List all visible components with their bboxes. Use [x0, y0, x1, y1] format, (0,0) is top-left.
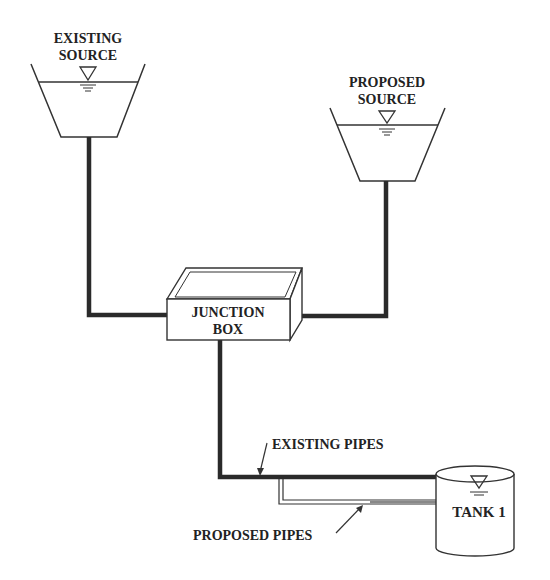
existing-source-reservoir: EXISTING SOURCE [31, 31, 145, 137]
proposed-source-reservoir: PROPOSED SOURCE [330, 75, 445, 181]
proposed-pipe [279, 479, 436, 504]
proposed-source-label-line2: SOURCE [358, 92, 416, 107]
pipe-network-diagram: EXISTING SOURCE PROPOSED SOURCE [0, 0, 550, 580]
proposed-source-label-line1: PROPOSED [349, 75, 425, 90]
junction-box: JUNCTION BOX [167, 268, 302, 340]
existing-source-label-line1: EXISTING [54, 31, 123, 46]
water-level-icon [80, 67, 96, 91]
junction-box-label-line1: JUNCTION [191, 305, 264, 320]
existing-source-label-line2: SOURCE [59, 48, 117, 63]
tank-1: TANK 1 [436, 466, 514, 556]
existing-pipes-label: EXISTING PIPES [272, 437, 384, 452]
tank-label: TANK 1 [452, 504, 505, 520]
existing-pipes-annotation: EXISTING PIPES [257, 437, 384, 476]
proposed-pipes-annotation: PROPOSED PIPES [193, 505, 363, 543]
proposed-pipes-label: PROPOSED PIPES [193, 528, 313, 543]
water-level-icon [379, 111, 395, 135]
junction-box-label-line2: BOX [213, 322, 243, 337]
